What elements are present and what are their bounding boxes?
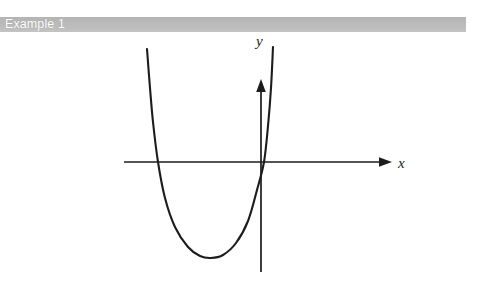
x-axis-label: x (397, 155, 405, 171)
y-axis-arrowhead (256, 79, 266, 92)
example-header-band (0, 17, 466, 32)
figure-page: Example 1 x y (0, 0, 477, 289)
page-title: Example 1 (5, 16, 65, 32)
y-axis-label: y (254, 33, 263, 49)
graph-figure: x y (0, 32, 477, 289)
parabola-svg: x y (0, 32, 477, 289)
parabola-curve (147, 47, 273, 258)
x-axis-arrowhead (379, 157, 392, 167)
